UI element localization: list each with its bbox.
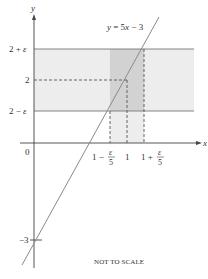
xtick-1: 1 xyxy=(125,152,130,162)
ytick-minus-3: −3 xyxy=(19,235,29,245)
y-axis-label: y xyxy=(30,3,35,13)
svg-text:1 +: 1 + xyxy=(141,152,153,162)
svg-text:ε: ε xyxy=(158,148,162,157)
y-axis-arrow-icon xyxy=(32,14,36,20)
svg-text:5: 5 xyxy=(158,158,162,167)
ytick-2-plus-eps: 2 + ε xyxy=(9,44,27,54)
ytick-2-minus-eps: 2 − ε xyxy=(9,106,27,116)
not-to-scale-note: NOT TO SCALE xyxy=(94,258,144,266)
ytick-2: 2 xyxy=(25,75,30,85)
xtick-1-plus-eps-over-5: 1 + ε 5 xyxy=(141,148,164,167)
x-axis-arrow-icon xyxy=(196,141,202,145)
svg-text:1 −: 1 − xyxy=(92,152,104,162)
origin-label: 0 xyxy=(25,147,30,157)
x-axis-label: x xyxy=(202,138,207,148)
xtick-1-minus-eps-over-5: 1 − ε 5 xyxy=(92,148,115,167)
svg-text:ε: ε xyxy=(109,148,113,157)
svg-text:5: 5 xyxy=(109,158,113,167)
equation-label: y = 5x − 3 xyxy=(106,22,144,32)
epsilon-delta-diagram: y x 0 y = 5x − 3 2 + ε 2 2 − ε −3 1 − ε … xyxy=(0,0,208,279)
